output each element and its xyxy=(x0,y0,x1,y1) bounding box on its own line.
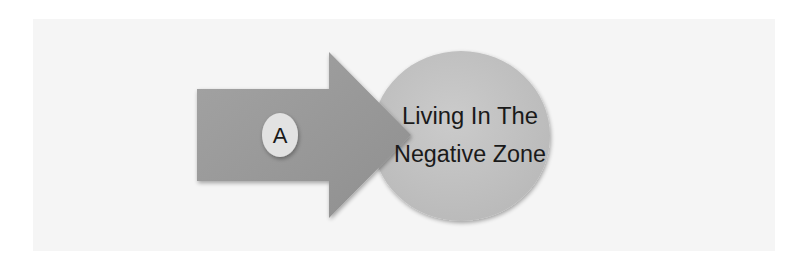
diagram-canvas: A Living In The Negative Zone xyxy=(0,0,808,265)
arrow-shape xyxy=(197,52,411,218)
target-label-line2: Negative Zone xyxy=(394,141,546,167)
badge-label: A xyxy=(273,123,288,148)
target-label-line1: Living In The xyxy=(402,103,538,129)
